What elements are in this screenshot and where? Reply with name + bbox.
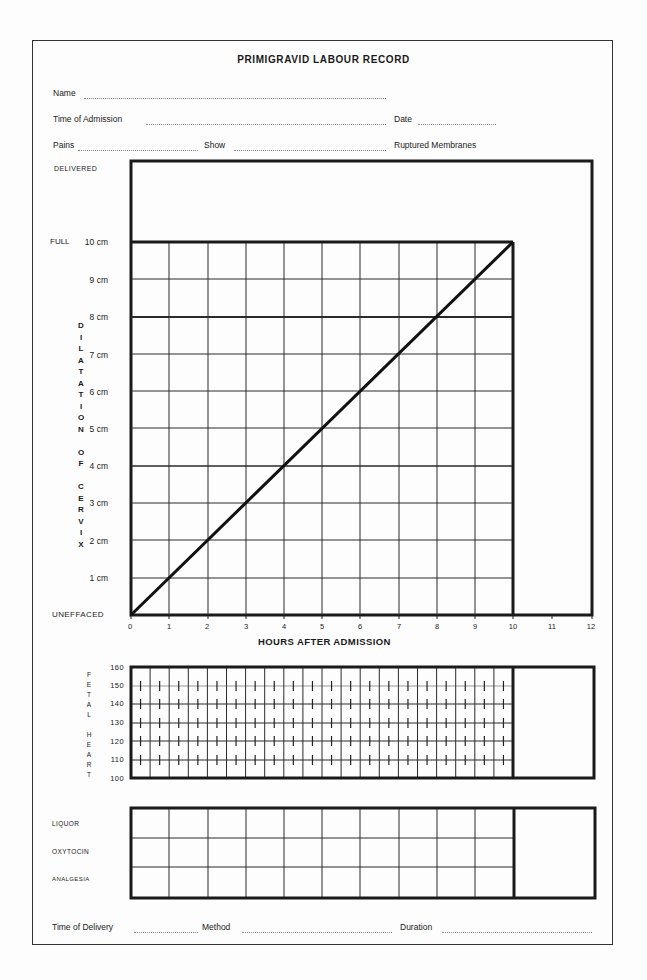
observations-grid <box>131 808 595 898</box>
chart-graphics <box>0 0 647 980</box>
fetal-heart-grid <box>131 667 594 778</box>
